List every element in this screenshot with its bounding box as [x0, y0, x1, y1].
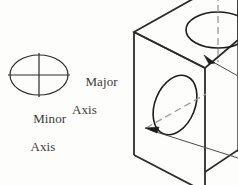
- minor-axis-label: Minor Axis: [12, 98, 74, 182]
- minor-axis-label-line1: Minor: [33, 111, 66, 126]
- major-axis-label-line2: Axis: [72, 103, 118, 117]
- front-hole-leader-arrowhead: [145, 127, 159, 133]
- major-axis-label: Major Axis: [72, 61, 118, 145]
- box-front-bottom-edge: [134, 155, 207, 185]
- major-axis-label-line1: Major: [85, 74, 117, 89]
- top-face-hole-ellipse: [186, 12, 238, 48]
- legend-ellipse-group: [8, 53, 70, 97]
- ellipse-axes-figure: Major Axis Minor Axis: [0, 0, 238, 185]
- box-right-bottom-edge: [205, 150, 238, 172]
- front-hole-leader-line: [150, 130, 238, 158]
- top-hole-leader-arrowhead: [204, 55, 215, 64]
- box-top-fold-edge: [134, 32, 205, 68]
- minor-axis-label-line2: Axis: [12, 140, 74, 154]
- top-face-hole-group: [186, 0, 238, 62]
